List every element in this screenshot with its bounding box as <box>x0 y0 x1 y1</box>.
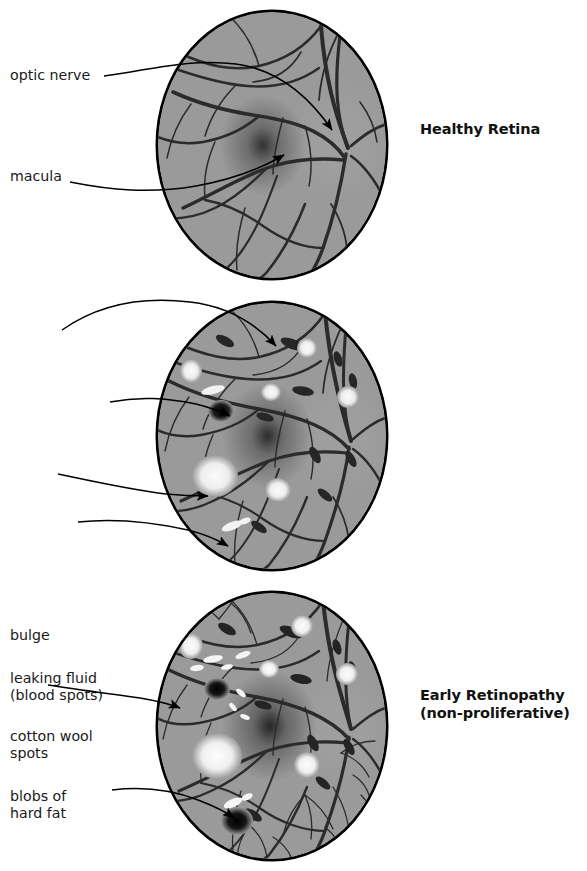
panel-early-retinopathy: Early Retinopathy (non-proliferative) bu… <box>0 291 587 581</box>
retina-illustration-healthy <box>155 8 390 283</box>
panel-healthy-retina: Healthy Retina optic nerve macula <box>0 0 587 290</box>
callout-macula: macula <box>10 168 62 185</box>
panel-advanced-retinopathy: Advanced Retinopathy (proliferative) new… <box>0 581 587 871</box>
hemorrhage-blood-spot <box>208 400 234 422</box>
retina-illustration-early <box>155 299 390 574</box>
hemorrhage-burst-vessel <box>221 807 253 835</box>
hemorrhage-upper <box>204 678 230 700</box>
callout-optic-nerve: optic nerve <box>10 67 90 84</box>
retina-svg-healthy <box>155 8 390 283</box>
panel-title-main: Healthy Retina <box>420 121 540 137</box>
retina-svg-advanced <box>155 589 390 864</box>
retina-svg-early <box>155 299 390 574</box>
panel-title-healthy: Healthy Retina <box>420 120 587 138</box>
retina-illustration-advanced <box>155 589 390 864</box>
